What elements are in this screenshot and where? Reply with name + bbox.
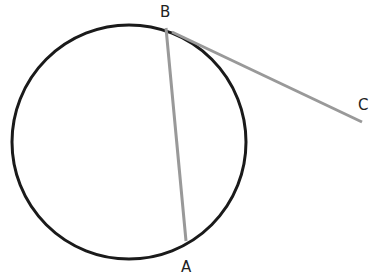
geometry-diagram: B A C xyxy=(0,0,380,279)
circle xyxy=(12,25,246,259)
label-C: C xyxy=(358,96,368,114)
label-B: B xyxy=(160,3,170,21)
tangent-BC xyxy=(172,32,362,122)
label-A: A xyxy=(181,258,192,276)
chord-BA xyxy=(166,28,186,241)
